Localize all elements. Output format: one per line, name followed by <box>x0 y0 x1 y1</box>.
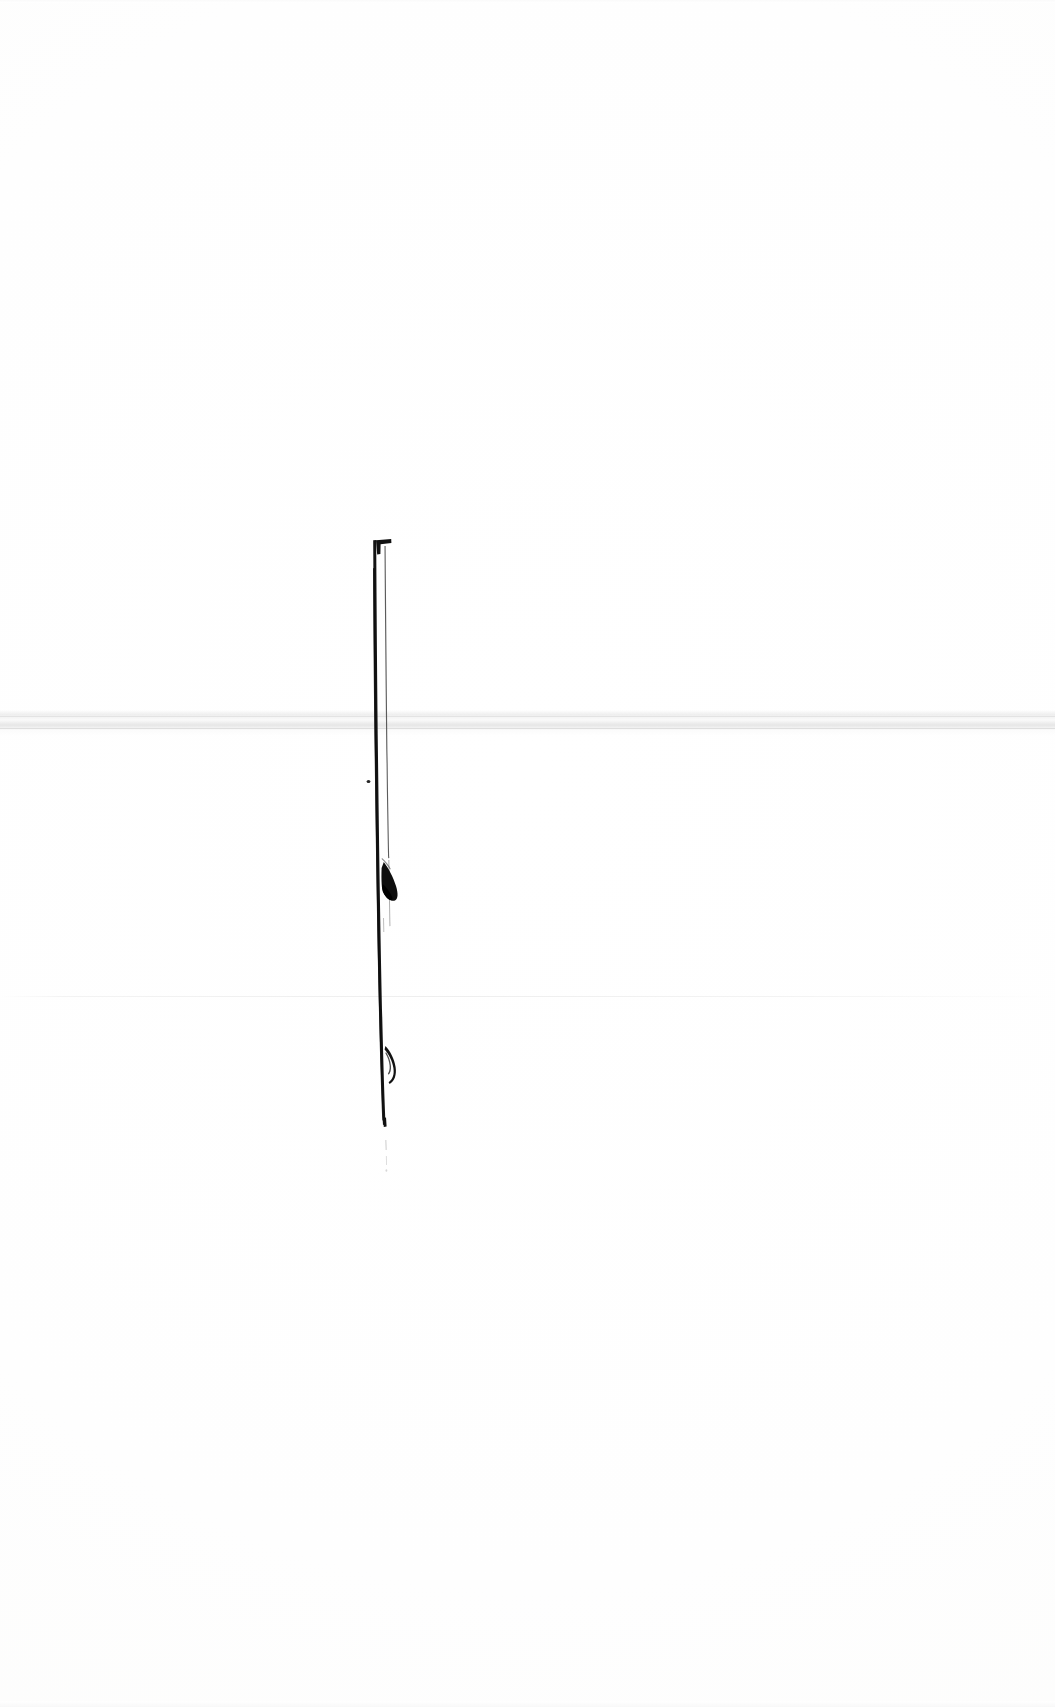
paper-edge-top <box>0 0 1055 3</box>
scan-band-line-lower <box>0 728 1055 729</box>
paper-edge-bottom <box>0 1701 1055 1707</box>
vertical-ink-stroke <box>352 528 432 1188</box>
hairline-parallel-icon <box>385 546 390 858</box>
top-serif-hook-icon <box>376 539 391 555</box>
scan-band-artifact <box>0 710 1055 736</box>
fading-tail-icon <box>385 1140 386 1150</box>
paper-tone <box>0 0 1055 1707</box>
ink-dot-icon <box>367 780 371 783</box>
sub-wedge-mark-icon <box>383 918 384 932</box>
scan-band-line-upper <box>0 716 1055 717</box>
scanned-page <box>0 0 1055 1707</box>
fading-tail-dot-icon <box>386 1156 387 1165</box>
fading-tail-speck-icon <box>386 1169 388 1171</box>
stroke-terminus-icon <box>383 1117 387 1127</box>
main-vertical-stroke-icon <box>373 540 385 1125</box>
faint-horizontal-line <box>0 996 1055 997</box>
